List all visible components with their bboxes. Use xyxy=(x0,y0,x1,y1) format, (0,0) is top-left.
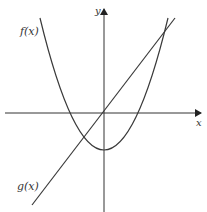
f-label: f(x) xyxy=(20,26,39,37)
y-axis-label: y xyxy=(95,6,101,16)
g-label: g(x) xyxy=(17,181,39,192)
graph-figure: f(x) g(x) x y xyxy=(0,0,207,212)
x-axis-label: x xyxy=(196,118,202,128)
